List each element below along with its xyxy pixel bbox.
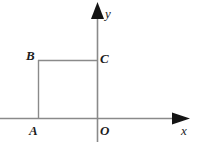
point-label-a: A [29,124,38,137]
figure-canvas [0,0,201,142]
x-axis-label: x [181,125,187,137]
origin-label-o: O [100,124,109,137]
point-label-b: B [26,49,35,62]
point-label-c: C [100,52,109,65]
geometry-figure: B C A O y x [0,0,201,142]
y-axis-arrowhead [91,2,104,19]
y-axis-label: y [105,8,111,20]
